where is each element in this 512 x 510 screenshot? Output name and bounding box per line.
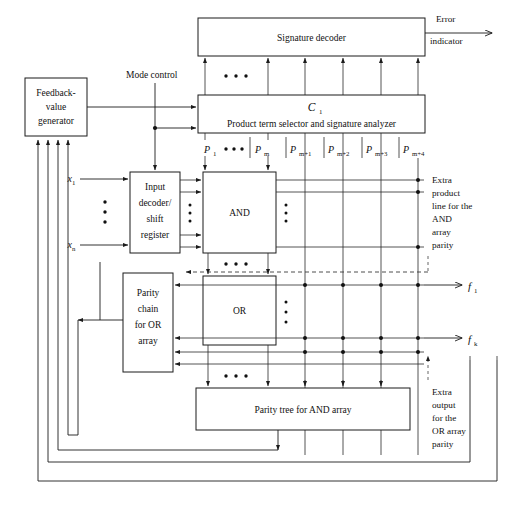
input-decoder-label-line3: shift (147, 214, 164, 224)
control-block-label: Product term selector and signature anal… (227, 119, 397, 129)
output-label-fk-sub: k (474, 340, 478, 347)
extra-product-line-annotation: Extra product line for the AND array par… (428, 175, 472, 272)
output-label-f1: f (468, 280, 473, 292)
product-line-labels: P 1 P m P m+1 P m+2 P m+3 P m+4 (203, 144, 425, 157)
extra-product-text-5: parity (432, 240, 454, 250)
feedback-generator-label-line2: value (46, 102, 67, 112)
input-decoder-label-line1: Input (145, 182, 165, 192)
or-crossbar-dots (303, 283, 420, 354)
feedback-value-generator-block: Feedback- value generator (25, 78, 87, 136)
mode-control-signal: Mode control (126, 70, 196, 170)
mode-control-junction-dot (153, 126, 157, 130)
signature-decoder-label: Signature decoder (277, 33, 347, 43)
parity-chain-output-wire (78, 262, 123, 320)
and-array-label: AND (229, 208, 250, 218)
product-line-label-4: P (365, 144, 372, 155)
primary-outputs: f 1 f k (424, 280, 478, 347)
primary-inputs: x 1 x n (67, 173, 128, 252)
input-label-x1-sub: 1 (72, 179, 75, 186)
error-indicator-label-line2: indicator (430, 36, 463, 46)
output-label-fk: f (468, 333, 473, 345)
and-array-block: AND (203, 172, 276, 253)
parity-tree-block: Parity tree for AND array (196, 388, 410, 430)
or-to-parity-tree-arrows (208, 345, 381, 386)
product-line-sub-5: m+4 (412, 150, 425, 157)
product-line-sub-3: m+2 (337, 150, 350, 157)
parity-tree-label: Parity tree for AND array (254, 405, 351, 415)
parity-chain-block: Parity chain for OR array (123, 273, 173, 372)
parity-chain-label-line4: array (138, 336, 158, 346)
signature-decoder-input-arrows (205, 58, 418, 95)
signature-decoder-block: Signature decoder (198, 18, 425, 56)
extra-product-text-2: line for the (432, 201, 472, 211)
input-decoder-label-line2: decoder/ (139, 198, 172, 208)
product-line-label-0: P (203, 144, 210, 155)
feedback-generator-label-line1: Feedback- (36, 88, 76, 98)
extra-product-text-4: array (432, 227, 451, 237)
mode-control-label: Mode control (126, 70, 178, 80)
feedback-generator-label-line3: generator (38, 116, 75, 126)
decoder-to-and-bus (180, 180, 201, 247)
product-term-selector-block: C 1 Product term selector and signature … (198, 95, 425, 133)
or-array-block: OR (203, 276, 276, 345)
parity-chain-label-line1: Parity (137, 288, 160, 298)
extra-product-text-0: Extra (432, 175, 452, 185)
extra-output-text-2: for the (432, 413, 456, 423)
control-block-title: C (308, 101, 316, 113)
diagram-canvas: Signature decoder Error indicator C 1 (0, 0, 512, 510)
and-array-output-rows (276, 178, 424, 249)
error-indicator-output: Error indicator (425, 14, 492, 46)
product-line-sub-1: m (264, 150, 270, 157)
parity-chain-label-line3: for OR (135, 320, 162, 330)
or-array-label: OR (233, 306, 247, 316)
product-line-sub-0: 1 (213, 150, 216, 157)
output-label-f1-sub: 1 (474, 287, 477, 294)
extra-output-text-3: OR array (432, 426, 466, 436)
feedback-riser-connections (470, 356, 497, 360)
input-decoder-label-line4: register (141, 230, 170, 240)
control-block-title-subscript: 1 (319, 108, 322, 115)
extra-product-text-3: AND (432, 214, 452, 224)
extra-output-text-4: parity (432, 439, 454, 449)
pla-block-diagram: Signature decoder Error indicator C 1 (0, 0, 512, 510)
extra-product-text-1: product (432, 188, 461, 198)
extra-output-text-0: Extra (432, 387, 452, 397)
error-indicator-label-line1: Error (436, 14, 455, 24)
input-decoder-block: Input decoder/ shift register (130, 172, 180, 253)
product-line-sub-4: m+3 (375, 150, 388, 157)
and-to-or-arrows (208, 253, 268, 274)
product-line-label-1: P (254, 144, 261, 155)
parity-chain-label-line2: chain (138, 304, 159, 314)
extra-output-text-1: output (432, 400, 456, 410)
input-label-xn-sub: n (72, 245, 76, 252)
extra-output-annotation: Extra output for the OR array parity (428, 356, 466, 449)
product-line-label-3: P (327, 144, 334, 155)
product-line-label-2: P (289, 144, 296, 155)
product-line-label-5: P (402, 144, 409, 155)
